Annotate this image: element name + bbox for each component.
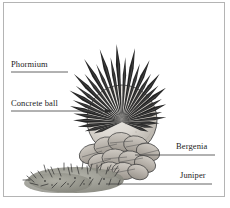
illustration-figure: Phormium Concrete ball Bergenia Juniper: [0, 0, 230, 208]
label-juniper: Juniper: [180, 171, 206, 180]
label-bergenia: Bergenia: [176, 142, 207, 151]
label-phormium: Phormium: [11, 60, 48, 69]
label-concrete-ball: Concrete ball: [11, 99, 58, 108]
